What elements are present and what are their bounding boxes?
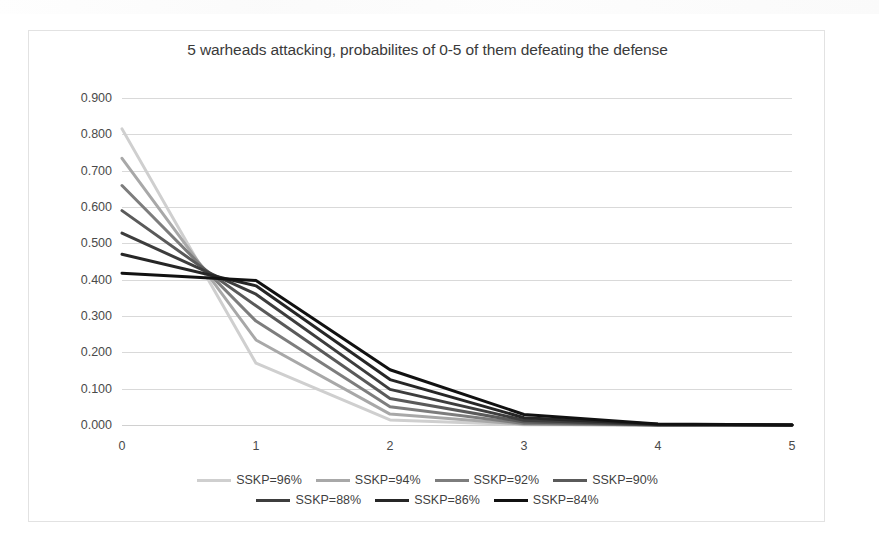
legend-swatch: [494, 499, 528, 502]
chart-frame: 5 warheads attacking, probabilites of 0-…: [28, 30, 825, 522]
y-axis-tick-label: 0.900: [81, 91, 112, 105]
y-axis-tick-label: 0.200: [81, 345, 112, 359]
y-axis-tick-label: 0.300: [81, 309, 112, 323]
x-axis-tick-label: 3: [521, 439, 528, 453]
legend-label: SSKP=90%: [592, 473, 658, 487]
legend-swatch: [256, 499, 290, 502]
legend-row-1: SSKP=96%SSKP=94%SSKP=92%SSKP=90%: [29, 473, 826, 487]
legend-item[interactable]: SSKP=86%: [375, 493, 480, 507]
y-axis-tick-label: 0.700: [81, 164, 112, 178]
legend-label: SSKP=92%: [474, 473, 540, 487]
legend-label: SSKP=88%: [295, 493, 361, 507]
scan-noise-band: [0, 0, 879, 14]
line-series: [122, 158, 792, 425]
legend-label: SSKP=96%: [236, 473, 302, 487]
legend-item[interactable]: SSKP=96%: [197, 473, 302, 487]
series-lines: [122, 98, 792, 425]
legend-swatch: [316, 479, 350, 482]
legend-item[interactable]: SSKP=88%: [256, 493, 361, 507]
chart-title: 5 warheads attacking, probabilites of 0-…: [29, 41, 826, 59]
x-axis-tick-label: 2: [387, 439, 394, 453]
legend-label: SSKP=86%: [414, 493, 480, 507]
y-axis-tick-label: 0.400: [81, 273, 112, 287]
x-axis-tick-label: 1: [253, 439, 260, 453]
legend-swatch: [435, 479, 469, 482]
y-axis-tick-label: 0.600: [81, 200, 112, 214]
y-axis-tick-label: 0.000: [81, 418, 112, 432]
x-axis-tick-label: 0: [119, 439, 126, 453]
y-axis-tick-label: 0.800: [81, 127, 112, 141]
plot-area: 0.9000.8000.7000.6000.5000.4000.3000.200…: [122, 98, 792, 425]
legend-swatch: [197, 479, 231, 482]
line-series: [122, 233, 792, 425]
y-axis-tick-label: 0.500: [81, 236, 112, 250]
x-axis-tick-label: 5: [789, 439, 796, 453]
legend-swatch: [375, 499, 409, 502]
legend-item[interactable]: SSKP=94%: [316, 473, 421, 487]
legend-row-2: SSKP=88%SSKP=86%SSKP=84%: [29, 493, 826, 507]
legend-item[interactable]: SSKP=90%: [553, 473, 658, 487]
legend-item[interactable]: SSKP=84%: [494, 493, 599, 507]
y-axis-tick-label: 0.100: [81, 382, 112, 396]
legend-swatch: [553, 479, 587, 482]
legend-label: SSKP=84%: [533, 493, 599, 507]
x-axis-tick-label: 4: [655, 439, 662, 453]
legend-item[interactable]: SSKP=92%: [435, 473, 540, 487]
chart-legend: SSKP=96%SSKP=94%SSKP=92%SSKP=90% SSKP=88…: [29, 467, 826, 507]
legend-label: SSKP=94%: [355, 473, 421, 487]
